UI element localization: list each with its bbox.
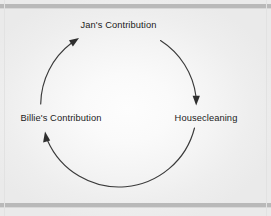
node-label-jans-contribution: Jan's Contribution bbox=[0, 20, 271, 31]
arc-housecleaning-to-billies bbox=[48, 128, 195, 187]
arc-jans-to-housecleaning bbox=[161, 41, 197, 97]
node-label-billies-contribution: Billie's Contribution bbox=[5, 113, 117, 124]
arrowhead-to-jans bbox=[69, 38, 79, 46]
node-label-housecleaning: Housecleaning bbox=[160, 113, 252, 124]
cycle-arcs bbox=[0, 0, 271, 216]
arc-billies-to-jans bbox=[41, 43, 72, 104]
arrowhead-to-billies bbox=[43, 132, 50, 143]
diagram-screenshot: Jan's Contribution Billie's Contribution… bbox=[0, 0, 271, 216]
arrowhead-to-housecleaning bbox=[193, 96, 200, 106]
